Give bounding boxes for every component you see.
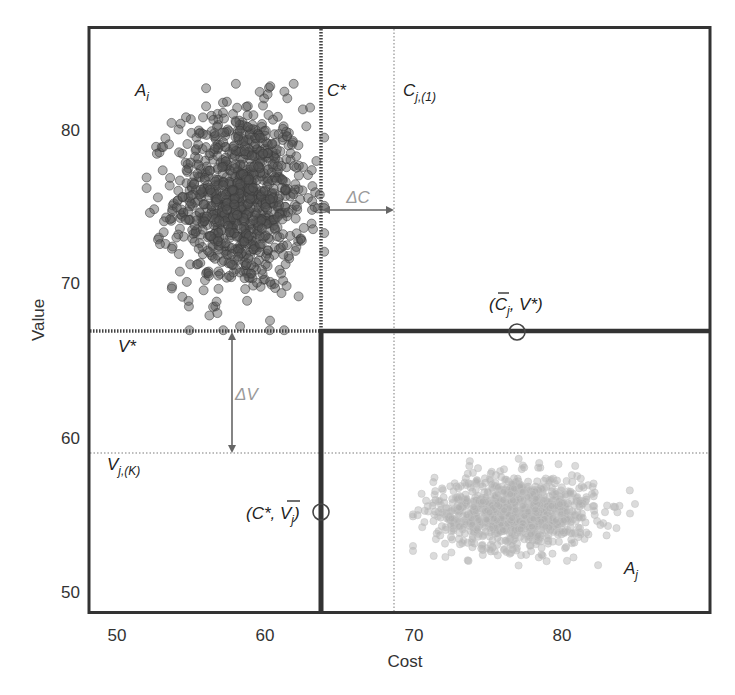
scatter-point	[199, 200, 208, 209]
scatter-point	[175, 148, 184, 157]
scatter-point	[499, 527, 506, 534]
scatter-point	[569, 540, 576, 547]
scatter-point	[142, 173, 151, 182]
scatter-point	[219, 181, 228, 190]
scatter-point	[537, 464, 544, 471]
scatter-point	[210, 145, 219, 154]
scatter-point	[487, 546, 494, 553]
scatter-point	[460, 523, 467, 530]
scatter-point	[591, 489, 598, 496]
scatter-point	[273, 232, 282, 241]
scatter-point	[473, 477, 480, 484]
scatter-point	[198, 225, 207, 234]
scatter-point	[490, 515, 497, 522]
scatter-point	[159, 143, 168, 152]
scatter-point	[563, 508, 570, 515]
scatter-series-a-i	[142, 79, 329, 334]
scatter-point	[534, 478, 541, 485]
scatter-point	[215, 216, 224, 225]
svg-text:(Cj, V*): (Cj, V*)	[489, 295, 543, 318]
scatter-point	[142, 184, 151, 193]
scatter-point	[219, 138, 228, 147]
scatter-point	[558, 528, 565, 535]
scatter-point	[552, 517, 559, 524]
scatter-point	[460, 537, 467, 544]
scatter-point	[479, 498, 486, 505]
scatter-point	[541, 496, 548, 503]
scatter-point	[263, 177, 272, 186]
scatter-point	[209, 115, 218, 124]
scatter-point	[257, 224, 266, 233]
scatter-point	[583, 494, 590, 501]
scatter-point	[233, 211, 242, 220]
scatter-point	[296, 195, 305, 204]
scatter-point	[166, 215, 175, 224]
scatter-point	[182, 277, 191, 286]
scatter-point	[497, 537, 504, 544]
scatter-point	[450, 527, 457, 534]
scatter-point	[469, 544, 476, 551]
scatter-point	[515, 562, 522, 569]
scatter-point	[432, 536, 439, 543]
scatter-point	[604, 522, 611, 529]
scatter-point	[243, 111, 252, 120]
scatter-point	[320, 204, 329, 213]
scatter-point	[569, 529, 576, 536]
scatter-point	[419, 524, 426, 531]
scatter-point	[515, 455, 522, 462]
scatter-point	[194, 260, 203, 269]
scatter-point	[566, 490, 573, 497]
y-tick-70: 70	[61, 274, 80, 293]
scatter-point	[202, 143, 211, 152]
label-point-cj-vstar: (Cj, V*)	[489, 293, 543, 318]
scatter-point	[167, 244, 176, 253]
scatter-point	[475, 517, 482, 524]
scatter-point	[256, 133, 265, 142]
scatter-point	[486, 476, 493, 483]
scatter-point	[494, 501, 501, 508]
scatter-point	[234, 252, 243, 261]
scatter-point	[186, 191, 195, 200]
scatter-point	[631, 500, 638, 507]
scatter-point	[539, 552, 546, 559]
scatter-point	[449, 536, 456, 543]
label-delta-v: ΔV	[234, 385, 259, 404]
scatter-point	[626, 487, 633, 494]
scatter-point	[563, 557, 570, 564]
scatter-point	[257, 265, 266, 274]
scatter-point	[259, 149, 268, 158]
scatter-point	[532, 495, 539, 502]
label-a-j: Aj	[623, 559, 638, 582]
cost-value-scatter-chart: 50 60 70 80 80 70 60 50 Cost Value Ai C*…	[0, 0, 735, 695]
scatter-point	[214, 284, 223, 293]
scatter-point	[214, 271, 223, 280]
scatter-point	[220, 128, 229, 137]
scatter-point	[194, 244, 203, 253]
scatter-point	[212, 195, 221, 204]
scatter-point	[307, 166, 316, 175]
scatter-point	[545, 540, 552, 547]
scatter-point	[287, 140, 296, 149]
label-point-cstar-vj: (C*, Vj)	[246, 501, 300, 527]
scatter-point	[153, 193, 162, 202]
scatter-point	[196, 185, 205, 194]
scatter-point	[195, 129, 204, 138]
scatter-point	[497, 468, 504, 475]
scatter-point	[249, 216, 258, 225]
scatter-point	[247, 151, 256, 160]
scatter-point	[568, 498, 575, 505]
scatter-point	[501, 507, 508, 514]
scatter-point	[480, 531, 487, 538]
scatter-point	[256, 248, 265, 257]
scatter-point	[306, 103, 315, 112]
scatter-point	[286, 231, 295, 240]
scatter-point	[232, 118, 241, 127]
scatter-point	[577, 531, 584, 538]
scatter-point	[266, 316, 275, 325]
scatter-point	[212, 297, 221, 306]
scatter-point	[604, 502, 611, 509]
scatter-series-a-j	[409, 455, 638, 569]
scatter-point	[308, 182, 317, 191]
scatter-point	[613, 525, 620, 532]
scatter-point	[230, 164, 239, 173]
